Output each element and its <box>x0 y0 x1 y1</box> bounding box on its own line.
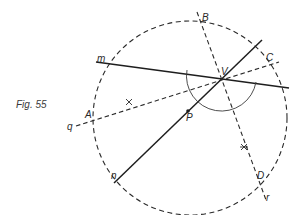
label-b: B <box>202 12 209 23</box>
label-c: C <box>266 52 274 63</box>
line-q <box>76 62 279 126</box>
label-n: n <box>111 170 117 181</box>
geometry-figure: Fig. 55 m B C V A q P n D r <box>0 0 302 215</box>
line-m <box>96 62 289 88</box>
label-m: m <box>97 53 105 64</box>
label-p: P <box>186 112 193 123</box>
label-v: V <box>221 66 229 77</box>
label-q: q <box>67 121 73 132</box>
figure-caption: Fig. 55 <box>16 99 47 110</box>
label-r: r <box>266 192 270 203</box>
label-a: A <box>84 109 92 120</box>
cross-mark-q <box>126 99 132 105</box>
label-d: D <box>257 170 264 181</box>
line-r <box>197 12 266 200</box>
